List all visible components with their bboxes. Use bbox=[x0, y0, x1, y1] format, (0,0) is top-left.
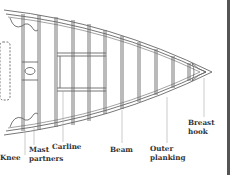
stern-panel bbox=[0, 42, 10, 100]
label-beam: Beam bbox=[110, 146, 133, 155]
label-outer-planking-line2: planking bbox=[150, 154, 186, 163]
label-breast-hook-line2: hook bbox=[188, 128, 208, 137]
label-carline: Carline bbox=[52, 143, 81, 152]
label-mast-partners-line2: partners bbox=[29, 155, 63, 164]
hull-outline bbox=[4, 10, 212, 135]
label-knee: Knee bbox=[0, 154, 21, 163]
page-edge bbox=[227, 0, 230, 175]
mast-hole bbox=[25, 68, 35, 75]
